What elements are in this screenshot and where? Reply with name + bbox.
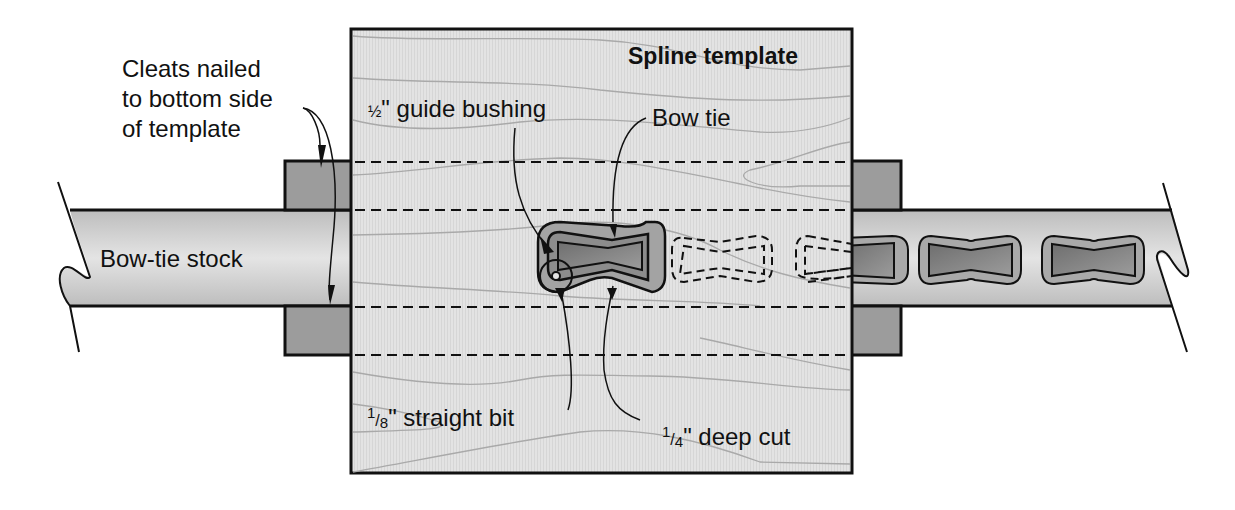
guide-bushing-label: ½" guide bushing [368, 94, 546, 126]
bow-tie-shape [1042, 236, 1144, 284]
deep-cut-label: 1/4" deep cut [662, 417, 790, 456]
finished-bow-ties [842, 236, 1144, 284]
cleat-right-top [850, 161, 901, 210]
spline-template-title: Spline template [628, 42, 798, 71]
cleat-left-bottom [285, 306, 353, 355]
cleat-right-bottom [850, 306, 901, 355]
cleat-left-top [285, 161, 353, 210]
straight-bit-label: 1/8" straight bit [367, 398, 514, 437]
bow-tie-stock-label: Bow-tie stock [100, 244, 243, 273]
bow-tie-label: Bow tie [652, 103, 731, 132]
cleats-label: Cleats nailed to bottom side of template [122, 54, 273, 144]
bow-tie-shape [919, 236, 1021, 284]
straight-bit-circle [552, 272, 560, 280]
